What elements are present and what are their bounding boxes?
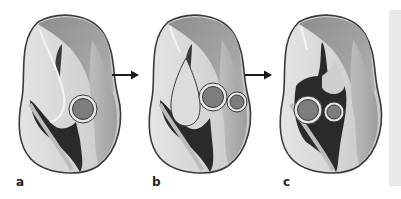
right-arrow-icon	[245, 71, 272, 80]
three-stage-illustration: a b c	[0, 0, 401, 199]
right-arrow-icon	[112, 71, 139, 80]
panel-c-diagram	[280, 15, 381, 173]
panel-a-diagram	[19, 15, 120, 173]
panel-b-small-circle	[227, 92, 247, 112]
panel-b-large-circle	[199, 83, 227, 111]
panel-b-diagram	[149, 15, 250, 173]
panel-label-b: b	[152, 176, 161, 188]
illustration-canvas	[0, 0, 401, 199]
panel-label-c: c	[283, 176, 290, 188]
panel-label-a: a	[16, 176, 24, 188]
panel-a-circle	[69, 95, 97, 123]
panel-c-large-circle	[294, 96, 322, 124]
panel-c-small-circle	[324, 102, 344, 122]
side-panel	[389, 10, 401, 186]
